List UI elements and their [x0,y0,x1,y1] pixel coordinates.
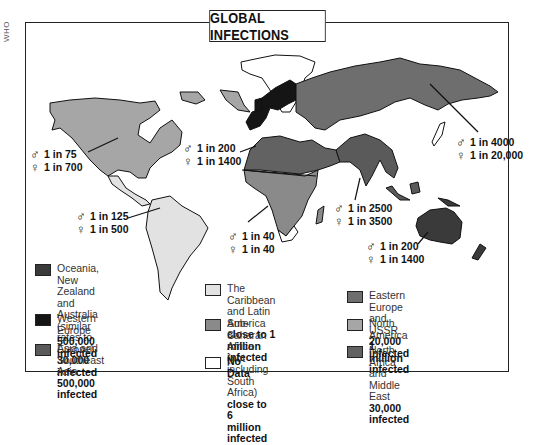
legend-item-sub-saharan-africa: Sub-Saharan Africa (not including South … [205,318,268,445]
female-symbol-icon: ♀ [456,149,470,162]
female-symbol-icon: ♀ [366,253,380,266]
legend-swatch [347,346,363,358]
region-south-america [146,196,208,300]
legend-swatch [35,314,51,326]
legend-swatch [35,344,51,356]
region-borneo [410,182,420,194]
female-rate: 1 in 700 [44,161,83,174]
region-central-america [108,176,150,206]
legend-swatch [205,284,221,296]
legend-label: North America [369,317,408,341]
legend-label: Asia and Southeast Asia [57,342,104,377]
legend-swatch [205,319,221,331]
female-symbol-icon: ♀ [228,243,242,256]
female-rate: 1 in 20,000 [470,149,523,162]
legend-count: close to 6 million infected [227,399,268,445]
male-rate: 1 in 75 [44,148,77,161]
rate-label-east-asia: ♂1 in 4000 ♀1 in 20,000 [456,136,523,162]
legend-swatch [347,319,363,331]
legend-label: North Africa and Middle East [369,344,400,402]
region-new-zealand [472,244,486,260]
region-arctic-islands [180,92,205,104]
region-sub-saharan-africa [244,170,318,236]
map-title: GLOBAL INFECTIONS [209,10,325,42]
legend-item-asia: Asia and Southeast Asia500,000 infected [35,343,104,401]
male-rate: 1 in 200 [380,240,419,253]
legend-item-no-data: No Data [205,356,250,379]
rate-label-western-europe: ♂1 in 200 ♀1 in 1400 [183,142,241,168]
legend-item-north-africa: North Africa and Middle East30,000 infec… [347,345,409,426]
region-north-africa-middle-east [244,136,340,174]
region-south-asia [336,134,398,186]
female-symbol-icon: ♀ [334,215,348,228]
rate-label-australia: ♂1 in 200 ♀1 in 1400 [366,240,424,266]
male-rate: 1 in 40 [242,230,275,243]
legend-swatch [347,291,363,303]
female-rate: 1 in 1400 [380,253,424,266]
region-uk [255,98,262,112]
region-ussr [296,58,498,130]
female-symbol-icon: ♀ [183,155,197,168]
region-se-asia-islands [386,186,410,200]
legend-count: 500,000 infected [57,378,104,401]
rate-label-south-asia: ♂1 in 2500 ♀1 in 3500 [334,202,392,228]
rate-label-north-america: ♂1 in 75 ♀1 in 700 [30,148,83,174]
legend-count: 30,000 infected [369,403,409,426]
male-rate: 1 in 125 [90,210,129,223]
legend-swatch [205,357,221,369]
female-rate: 1 in 3500 [348,215,392,228]
female-symbol-icon: ♀ [76,223,90,236]
male-rate: 1 in 4000 [470,136,514,149]
region-baffin [220,90,250,112]
rate-label-latin-america: ♂1 in 125 ♀1 in 500 [76,210,129,236]
legend-count: No Data [227,356,250,379]
male-rate: 1 in 2500 [348,202,392,215]
legend-label: Western Europe [57,312,96,336]
male-rate: 1 in 200 [197,142,236,155]
legend-swatch [35,264,51,276]
region-japan [432,122,445,146]
region-new-guinea [438,198,460,206]
female-symbol-icon: ♀ [30,161,44,174]
female-rate: 1 in 500 [90,223,129,236]
rate-label-sub-saharan-africa: ♂1 in 40 ♀1 in 40 [228,230,275,256]
region-madagascar [316,206,324,224]
female-rate: 1 in 1400 [197,155,241,168]
female-rate: 1 in 40 [242,243,275,256]
